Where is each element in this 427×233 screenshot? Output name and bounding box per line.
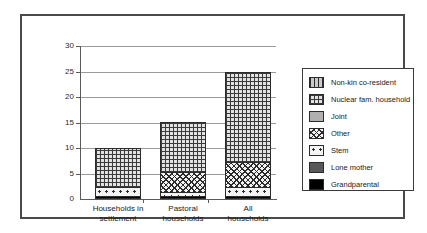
gridline-30: 30 — [80, 46, 276, 47]
ytick-label-15: 15 — [65, 119, 74, 127]
legend-item-grandparental[interactable]: Grandparental — [309, 176, 409, 192]
legend-swatch-vertical-lines-icon — [309, 77, 324, 88]
segment-stem — [226, 188, 270, 197]
plot-area: 30 25 20 15 10 5 0 — [80, 46, 276, 199]
legend-swatch-grid-icon — [309, 94, 324, 105]
legend-item-joint[interactable]: Joint — [309, 108, 409, 124]
ytick-label-0: 0 — [70, 195, 74, 203]
xtick-mark-1 — [143, 199, 144, 203]
legend-label: Stem — [331, 146, 349, 155]
segment-grandparental — [96, 197, 140, 198]
legend-item-nuclear-fam-household[interactable]: Nuclear fam. household — [309, 91, 409, 107]
chart-legend: Non-kin co-resident Nuclear fam. househo… — [302, 68, 414, 191]
xtick-label-line-1: All — [205, 204, 291, 214]
xtick-label-all-households: All households — [205, 204, 291, 224]
bar-households-in-settlement[interactable] — [95, 148, 141, 199]
legend-label: Joint — [331, 112, 347, 121]
segment-nuclear-fam-household — [226, 73, 270, 163]
legend-swatch-cross-speckle-icon — [309, 128, 324, 139]
legend-item-non-kin-co-resident[interactable]: Non-kin co-resident — [309, 74, 409, 90]
legend-item-stem[interactable]: Stem — [309, 142, 409, 158]
chart-frame: 30 25 20 15 10 5 0 — [20, 14, 405, 219]
segment-nuclear-fam-household — [96, 149, 140, 188]
legend-swatch-circles-icon — [309, 145, 324, 156]
segment-grandparental — [161, 197, 205, 198]
legend-item-lone-mother[interactable]: Lone mother — [309, 159, 409, 175]
x-axis-line — [80, 199, 277, 200]
bar-pastoral-households[interactable] — [160, 122, 206, 200]
segment-stem — [96, 188, 140, 196]
y-axis-line — [80, 46, 81, 200]
legend-swatch-solid-dark-gray-icon — [309, 162, 324, 173]
ytick-label-5: 5 — [70, 170, 74, 178]
legend-swatch-solid-black-icon — [309, 179, 324, 190]
segment-other — [161, 173, 205, 193]
legend-swatch-solid-light-gray-icon — [309, 111, 324, 122]
xtick-label-line-2: households — [205, 214, 291, 224]
ytick-label-20: 20 — [65, 93, 74, 101]
legend-label: Grandparental — [331, 180, 379, 189]
ytick-label-25: 25 — [65, 68, 74, 76]
ytick-label-10: 10 — [65, 144, 74, 152]
segment-other — [226, 163, 270, 188]
legend-label: Nuclear fam. household — [331, 95, 410, 104]
segment-nuclear-fam-household — [161, 123, 205, 174]
legend-item-other[interactable]: Other — [309, 125, 409, 141]
xtick-mark-2 — [208, 199, 209, 203]
legend-label: Other — [331, 129, 350, 138]
segment-grandparental — [226, 197, 270, 198]
ytick-label-30: 30 — [65, 42, 74, 50]
legend-label: Lone mother — [331, 163, 373, 172]
bar-all-households[interactable] — [225, 72, 271, 200]
legend-label: Non-kin co-resident — [331, 78, 396, 87]
